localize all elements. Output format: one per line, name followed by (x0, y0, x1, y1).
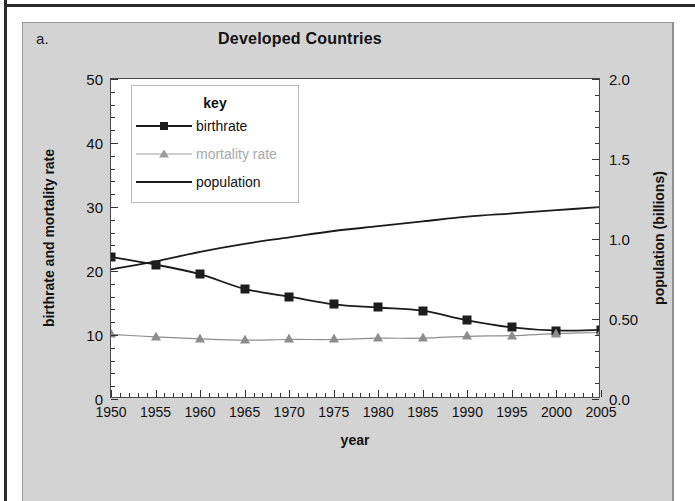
x-minor-tick (120, 393, 121, 397)
y-right-tick-label: 0.50 (609, 311, 638, 328)
y-right-minor-tick (595, 351, 599, 352)
y-right-minor-tick (595, 95, 599, 96)
data-point-mortality-rate (373, 333, 383, 342)
data-point-mortality-rate (195, 333, 205, 342)
x-minor-tick (583, 393, 584, 397)
data-point-mortality-rate (507, 330, 517, 339)
y-left-axis-title: birthrate and mortality rate (38, 78, 60, 398)
x-minor-tick (503, 393, 504, 397)
page-rule-top (4, 4, 695, 7)
y-left-tick (111, 143, 118, 144)
series-line-population (111, 207, 599, 269)
x-tick-label: 1955 (140, 404, 171, 420)
x-minor-tick (539, 393, 540, 397)
x-minor-tick (173, 393, 174, 397)
y-right-minor-tick (595, 223, 599, 224)
y-right-tick-label: 1.0 (609, 231, 630, 248)
x-minor-tick (325, 393, 326, 397)
x-tick-label: 1980 (363, 404, 394, 420)
x-minor-tick (316, 393, 317, 397)
x-tick-label: 1950 (95, 404, 126, 420)
y-right-tick (592, 399, 599, 400)
x-minor-tick (352, 393, 353, 397)
x-minor-tick (218, 393, 219, 397)
data-point-mortality-rate (111, 329, 116, 338)
y-left-axis-title-text: birthrate and mortality rate (41, 149, 57, 327)
x-minor-tick (209, 393, 210, 397)
data-point-birthrate (374, 303, 383, 312)
y-left-tick-label: 30 (86, 199, 103, 216)
y-right-minor-tick (595, 127, 599, 128)
x-minor-tick (164, 393, 165, 397)
y-right-minor-tick (595, 271, 599, 272)
x-tick-label: 1965 (229, 404, 260, 420)
y-left-minor-tick (111, 105, 115, 106)
series-line-mortality-rate (111, 332, 599, 340)
y-left-minor-tick (111, 220, 115, 221)
x-minor-tick (530, 393, 531, 397)
x-tick (156, 390, 157, 397)
y-left-minor-tick (111, 361, 115, 362)
data-point-mortality-rate (240, 335, 250, 344)
y-right-minor-tick (595, 191, 599, 192)
x-minor-tick (343, 393, 344, 397)
y-left-tick-label: 50 (86, 71, 103, 88)
y-left-minor-tick (111, 130, 115, 131)
x-minor-tick (458, 393, 459, 397)
x-tick-label: 1960 (185, 404, 216, 420)
y-left-minor-tick (111, 386, 115, 387)
x-minor-tick (405, 393, 406, 397)
y-left-tick (111, 335, 118, 336)
x-tick (334, 390, 335, 397)
y-left-tick-label: 20 (86, 263, 103, 280)
legend-box: key birthrate mortality rate (131, 85, 299, 203)
x-tick (512, 390, 513, 397)
y-left-minor-tick (111, 348, 115, 349)
y-left-minor-tick (111, 245, 115, 246)
x-minor-tick (182, 393, 183, 397)
x-tick (556, 390, 557, 397)
y-right-minor-tick (595, 335, 599, 336)
y-left-minor-tick (111, 169, 115, 170)
x-minor-tick (432, 393, 433, 397)
x-tick (423, 390, 424, 397)
y-right-minor-tick (595, 175, 599, 176)
x-tick-label: 1995 (496, 404, 527, 420)
y-right-minor-tick (595, 383, 599, 384)
y-right-tick-label: 2.0 (609, 71, 630, 88)
y-left-minor-tick (111, 373, 115, 374)
x-minor-tick (450, 393, 451, 397)
x-tick-label: 1970 (274, 404, 305, 420)
data-point-mortality-rate (284, 334, 294, 343)
y-right-minor-tick (595, 111, 599, 112)
legend-title: key (132, 95, 298, 111)
x-axis-title: year (110, 432, 600, 448)
x-tick (601, 390, 602, 397)
y-left-minor-tick (111, 117, 115, 118)
data-point-birthrate (285, 292, 294, 301)
x-minor-tick (592, 393, 593, 397)
y-left-tick-label: 40 (86, 135, 103, 152)
y-right-minor-tick (595, 367, 599, 368)
y-left-minor-tick (111, 233, 115, 234)
data-point-mortality-rate (462, 331, 472, 340)
x-minor-tick (414, 393, 415, 397)
y-left-tick (111, 207, 118, 208)
y-right-tick (592, 159, 599, 160)
data-point-birthrate (111, 252, 116, 261)
data-point-mortality-rate (151, 332, 161, 341)
data-point-birthrate (329, 300, 338, 309)
x-tick (467, 390, 468, 397)
legend-item-population: population (132, 169, 298, 195)
y-left-tick (111, 79, 118, 80)
y-right-axis-title-text: population (billions) (651, 171, 667, 305)
x-minor-tick (129, 393, 130, 397)
data-point-birthrate (196, 270, 205, 279)
x-minor-tick (396, 393, 397, 397)
x-minor-tick (441, 393, 442, 397)
y-right-minor-tick (595, 255, 599, 256)
x-tick-label: 2000 (541, 404, 572, 420)
y-left-minor-tick (111, 322, 115, 323)
series-line-birthrate (111, 257, 599, 331)
y-left-tick (111, 399, 118, 400)
